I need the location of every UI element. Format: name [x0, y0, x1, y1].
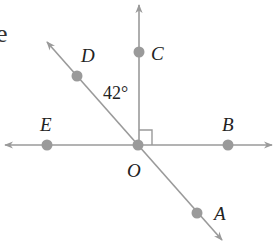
text-fragment: e: [0, 19, 8, 48]
label-E: E: [39, 114, 52, 135]
angle-label: 42°: [103, 83, 128, 103]
point-E: [42, 140, 53, 151]
point-O: [133, 140, 144, 151]
point-A: [192, 208, 203, 219]
label-B: B: [222, 114, 234, 135]
label-O: O: [127, 160, 141, 181]
geometry-diagram: e C D E B O A 42°: [0, 0, 277, 242]
ray-OA: [138, 145, 222, 240]
label-D: D: [80, 45, 95, 66]
point-C: [134, 47, 145, 58]
point-B: [223, 140, 234, 151]
label-C: C: [151, 43, 164, 64]
label-A: A: [212, 203, 226, 224]
point-D: [72, 71, 83, 82]
